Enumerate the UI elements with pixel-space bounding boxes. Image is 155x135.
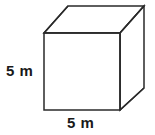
cube-front-face: [44, 33, 120, 110]
cube-width-label: 5 m: [67, 115, 94, 130]
cube-height-label: 5 m: [6, 63, 33, 78]
cube-figure: 5 m 5 m: [0, 0, 155, 135]
